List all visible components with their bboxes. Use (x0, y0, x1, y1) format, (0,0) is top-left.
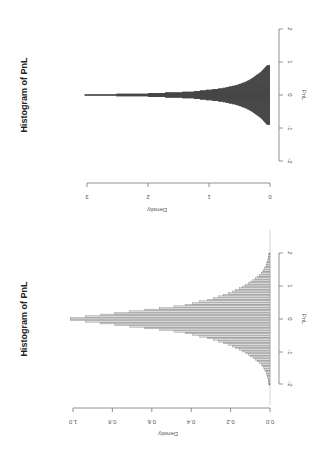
x-tick-label: -1 (287, 349, 293, 355)
histogram-bar (200, 90, 270, 91)
histogram-bar (218, 88, 270, 89)
histogram-bar (250, 79, 270, 80)
histogram-bar (259, 116, 270, 117)
histogram-bar (213, 339, 270, 341)
histogram-bar (236, 347, 270, 349)
histogram-bar (246, 81, 270, 82)
histogram-bar (115, 312, 270, 314)
histogram-bar (264, 270, 270, 272)
histogram-bar (212, 89, 270, 90)
histogram-bar (251, 355, 270, 357)
histogram-bar (266, 266, 270, 268)
histogram-bar (247, 80, 270, 81)
histogram-bar (237, 84, 270, 85)
histogram-bar (228, 293, 270, 295)
y-tick-label: 3 (85, 194, 89, 200)
x-tick-label: -1 (287, 125, 293, 131)
histogram-bar (256, 75, 270, 76)
y-tick-label: 0.8 (108, 419, 117, 425)
histogram-bar (148, 93, 270, 94)
histogram-bar (268, 378, 270, 380)
y-tick-label: 0 (268, 194, 272, 200)
histogram-bar (247, 109, 270, 110)
histogram-bar (218, 101, 270, 102)
x-tick-label: 2 (287, 251, 293, 255)
histogram-bar (182, 98, 270, 99)
histogram-bar (255, 359, 270, 361)
histogram-bar (258, 115, 270, 116)
histogram-bar (174, 306, 270, 308)
y-axis-label-top: Density (147, 207, 167, 213)
histogram-bar (259, 73, 270, 74)
histogram-bar (252, 78, 270, 79)
x-tick-label: -2 (287, 158, 293, 164)
histogram-bar (241, 106, 270, 107)
histogram-bar (223, 342, 270, 344)
histogram-bar (268, 260, 270, 262)
histogram-bar (241, 83, 270, 84)
histogram-bar (254, 77, 270, 78)
histogram-bar (100, 314, 270, 316)
histogram-bar (148, 96, 270, 97)
chart-title-bottom: Histogram of PnL (19, 281, 29, 357)
y-axis-top: 0 1 2 3 Density (85, 183, 272, 213)
histogram-bar (130, 326, 270, 328)
histogram-bar (239, 288, 270, 290)
histogram-bar (267, 65, 270, 66)
histogram-bar (266, 370, 270, 372)
histogram-bar (246, 284, 270, 286)
histogram-bar (246, 108, 270, 109)
histogram-bar (144, 327, 270, 329)
histogram-bar (194, 91, 270, 92)
y-tick-label: 0.4 (186, 419, 195, 425)
histogram-bar (266, 66, 270, 67)
histogram-bar (268, 258, 270, 260)
histogram-bar (239, 349, 270, 351)
histogram-bar (259, 274, 270, 276)
histogram-bar (185, 332, 270, 334)
histogram-bar (237, 105, 270, 106)
histogram-bar (207, 337, 270, 339)
x-tick-label: -2 (287, 381, 293, 387)
histogram-bar (268, 377, 270, 379)
histogram-bar (85, 316, 270, 318)
chart-title-top: Histogram of PnL (19, 57, 29, 133)
histogram-bar (182, 92, 270, 93)
histogram-bar (232, 86, 270, 87)
x-axis-label-top: PnL (301, 90, 307, 101)
y-tick-label: 2 (146, 194, 150, 200)
histogram-bar (159, 329, 270, 331)
histogram-bar (192, 334, 270, 336)
histogram-bar (243, 82, 270, 83)
histogram-bar (264, 68, 270, 69)
histogram-bar (207, 299, 270, 301)
histogram-bar (264, 121, 270, 122)
histogram-figure: Histogram of PnL 2 1 0 -1 -2 PnL 0 1 2 (0, 0, 327, 460)
histogram-bar (253, 357, 270, 359)
histogram-bar (259, 73, 270, 74)
histogram-bar (248, 283, 270, 285)
histogram-bar (226, 102, 270, 103)
histogram-bar (266, 123, 270, 124)
histogram-bar (252, 112, 270, 113)
histogram-bar (265, 369, 270, 371)
histogram-bar (269, 382, 270, 384)
x-tick-label: 1 (287, 60, 293, 64)
histogram-bottom: Histogram of PnL 2 1 0 -1 -2 PnL 0.0 (19, 230, 307, 437)
histogram-bar (258, 74, 270, 75)
histogram-bar (228, 344, 270, 346)
histogram-bar (267, 263, 270, 265)
histogram-bar (263, 69, 270, 70)
histogram-bar (174, 331, 270, 333)
histogram-bar (262, 70, 270, 71)
histogram-bar (265, 67, 270, 68)
histogram-bar (254, 113, 270, 114)
histogram-bar (253, 279, 270, 281)
bars-bottom (71, 253, 270, 385)
histogram-bar (223, 294, 270, 296)
histogram-bar (257, 115, 270, 116)
x-tick-label: 2 (287, 27, 293, 31)
histogram-bar (249, 80, 270, 81)
y-tick-label: 1 (207, 194, 211, 200)
histogram-bar (253, 77, 270, 78)
